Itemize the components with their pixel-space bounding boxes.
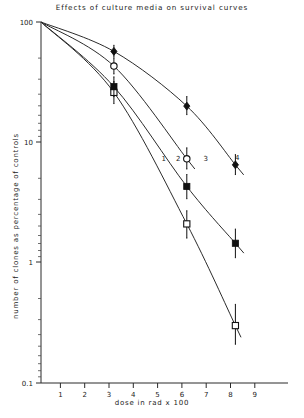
chart-plot-area: 100 10 1 0.1 1 2 3 4 5 6 7 8 9 1234 [0, 0, 304, 418]
series-3 [41, 22, 195, 169]
y-tick-label-100: 100 [20, 19, 33, 27]
survival-curve-figure: Effects of culture media on survival cur… [0, 0, 304, 418]
data-point-marker-open-square [184, 221, 190, 227]
y-tick-label-0.1: 0.1 [22, 380, 33, 388]
x-tick-label-9: 9 [253, 391, 257, 399]
data-point-marker-open-circle [111, 63, 117, 69]
data-point-marker-filled-square [184, 183, 190, 189]
data-point-marker-open-circle [184, 156, 190, 162]
data-point-marker-filled-square [111, 84, 117, 90]
x-tick-label-8: 8 [228, 391, 232, 399]
x-tick-label-1: 1 [58, 391, 62, 399]
data-series-layer [41, 22, 244, 344]
curve-label-1: 1 [161, 155, 165, 163]
data-point-marker-filled-diamond [111, 47, 117, 55]
x-axis-ticks [60, 383, 254, 388]
chart-title: Effects of culture media on survival cur… [0, 3, 304, 12]
y-tick-label-10: 10 [24, 139, 33, 147]
data-point-marker-filled-diamond [184, 102, 190, 110]
x-tick-label-5: 5 [155, 391, 159, 399]
x-tick-label-6: 6 [180, 391, 185, 399]
curve-label-2: 2 [176, 155, 180, 163]
data-point-marker-filled-square [232, 240, 238, 246]
series-1 [41, 22, 241, 344]
x-axis-label: dose in rad x 100 [0, 399, 304, 407]
curve-line-3 [41, 22, 195, 169]
data-point-marker-open-square [232, 322, 238, 328]
curve-label-3: 3 [204, 155, 208, 163]
curve-label-4: 4 [235, 154, 240, 162]
y-tick-label-1: 1 [29, 259, 33, 267]
x-tick-label-4: 4 [131, 391, 136, 399]
series-2 [41, 22, 244, 258]
y-axis-major-ticks [36, 22, 41, 383]
x-tick-label-2: 2 [82, 391, 86, 399]
y-axis-label: number of clones as percentage of contro… [12, 116, 20, 336]
x-tick-label-7: 7 [204, 391, 208, 399]
curve-line-2 [41, 22, 244, 253]
x-tick-label-3: 3 [107, 391, 111, 399]
